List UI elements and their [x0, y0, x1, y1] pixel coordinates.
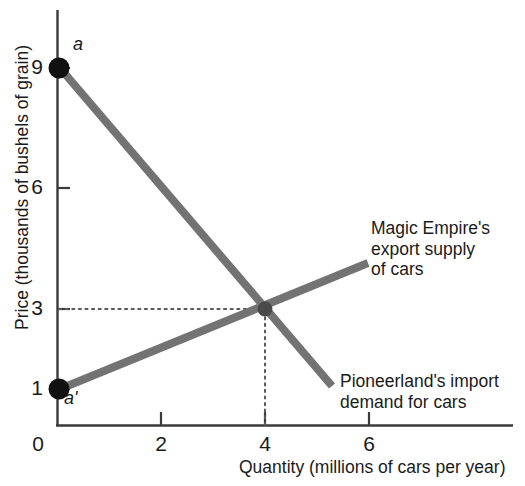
- y-axis-title: Price (thousands of bushels of grain): [12, 45, 33, 330]
- chart-figure: 9 6 3 1 0 2 4 6 Price (thousands of bush…: [0, 0, 525, 486]
- demand-curve-annotation: Pioneerland's import demand for cars: [340, 371, 499, 412]
- demand-curve-label-line2: demand for cars: [340, 392, 499, 413]
- point-a-prime-label: a': [64, 388, 77, 409]
- demand-curve: [60, 68, 332, 386]
- supply-curve-label-line3: of cars: [371, 259, 490, 280]
- equilibrium-point-marker: [258, 302, 273, 317]
- point-a-label: a: [73, 34, 83, 55]
- x-tick-label-6: 6: [349, 432, 389, 457]
- x-tick-label-0: 0: [18, 432, 58, 457]
- demand-curve-label-line1: Pioneerland's import: [340, 371, 499, 392]
- x-tick-label-4: 4: [245, 432, 285, 457]
- x-axis-title: Quantity (millions of cars per year): [239, 457, 505, 478]
- y-tick-label-1: 1: [17, 376, 57, 401]
- supply-curve-annotation: Magic Empire's export supply of cars: [371, 218, 490, 280]
- supply-curve-label-line1: Magic Empire's: [371, 218, 490, 239]
- x-tick-label-2: 2: [141, 432, 181, 457]
- supply-curve-label-line2: export supply: [371, 239, 490, 260]
